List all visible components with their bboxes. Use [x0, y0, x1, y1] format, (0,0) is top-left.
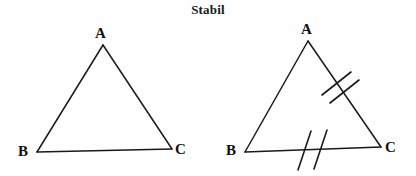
tick-ac-2	[330, 80, 359, 103]
segment-right-AB	[245, 41, 308, 152]
vertex-label-left-b: B	[18, 144, 28, 159]
segment-right-AC	[308, 41, 381, 147]
segment-left-AB	[37, 45, 103, 152]
vertex-label-right-c: C	[385, 140, 396, 155]
geometry-figure: Stabil A B C A B C	[0, 0, 416, 176]
vertex-label-right-b: B	[226, 143, 236, 158]
segment-left-BC	[37, 149, 172, 152]
segment-left-AC	[103, 45, 172, 149]
vertex-label-right-a: A	[301, 22, 312, 37]
segment-right-BC	[245, 147, 381, 152]
vertex-label-left-c: C	[175, 142, 186, 157]
triangle-right-outline	[245, 41, 381, 152]
tick-ac-1	[322, 72, 351, 95]
vertex-label-left-a: A	[95, 26, 106, 41]
triangle-left-graphic	[0, 0, 416, 176]
triangle-left-outline	[37, 45, 172, 152]
